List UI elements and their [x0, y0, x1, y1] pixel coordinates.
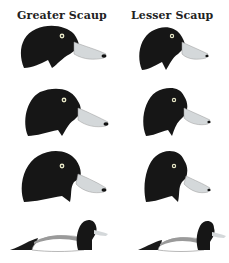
greater-scaup-head-1: [18, 24, 113, 69]
column-title-greater: Greater Scaup: [17, 9, 107, 22]
lesser-scaup-head-1: [138, 26, 218, 71]
greater-scaup-body: [8, 216, 108, 254]
greater-scaup-head-2: [22, 86, 117, 138]
lesser-scaup-head-3: [144, 148, 224, 204]
lesser-scaup-body: [136, 218, 226, 254]
greater-scaup-head-3: [20, 148, 115, 204]
column-title-lesser: Lesser Scaup: [131, 9, 213, 22]
lesser-scaup-head-2: [142, 86, 222, 138]
